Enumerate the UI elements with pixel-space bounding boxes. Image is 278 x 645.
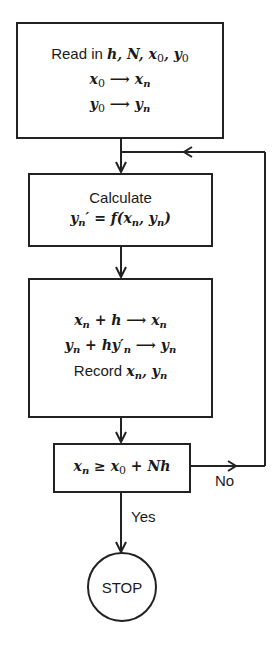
calculate-label: Calculate — [89, 187, 152, 208]
update-line-x: xn + h ⟶ xn — [74, 310, 167, 335]
update-line-y: yn + hy′n ⟶ yn — [65, 335, 176, 360]
node-decision: xn ≥ x0 + Nh — [53, 443, 191, 493]
read-in-label: Read in — [51, 45, 103, 62]
node-stop: STOP — [87, 552, 157, 622]
node-calculate: Calculate yn′ = f(xn, yn) — [28, 173, 213, 247]
decision-condition: xn ≥ x0 + Nh — [74, 456, 171, 481]
record-label: Record — [74, 362, 122, 379]
node-update: xn + h ⟶ xn yn + hy′n ⟶ yn Record xn, yn — [28, 278, 213, 418]
label-yes: Yes — [131, 508, 155, 525]
init-line-read: Read in h, N, x0, y0 — [51, 43, 189, 69]
calculate-formula: yn′ = f(xn, yn) — [70, 208, 171, 233]
update-line-record: Record xn, yn — [74, 360, 167, 386]
init-line-x: x0 ⟶ xn — [90, 69, 151, 94]
stop-label: STOP — [102, 579, 143, 596]
node-init: Read in h, N, x0, y0 x0 ⟶ xn y0 ⟶ yn — [16, 22, 224, 139]
init-line-y: y0 ⟶ yn — [90, 94, 150, 119]
label-no: No — [215, 472, 234, 489]
